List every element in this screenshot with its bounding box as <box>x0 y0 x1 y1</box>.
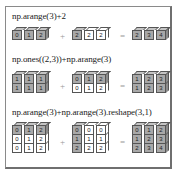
cube-side-face <box>106 140 109 153</box>
array-cell: 2 <box>132 27 143 38</box>
array-cell: 4 <box>156 27 167 38</box>
plus-operator: + <box>60 137 65 147</box>
equals-operator: = <box>120 81 125 91</box>
example-3: np.arange(3)+np.arange(3).reshape(3,1) 0… <box>6 107 170 167</box>
array-cell: 0 <box>12 140 23 151</box>
array-cell: 2 <box>72 140 83 151</box>
example-label: np.arange(3)+2 <box>12 11 66 21</box>
cell-value: 1 <box>84 83 94 93</box>
plus-operator: + <box>60 81 65 91</box>
cell-value: 2 <box>36 30 46 40</box>
cube-side-face <box>46 27 49 40</box>
array-cell: 3 <box>144 140 155 151</box>
array-cell: 1 <box>24 80 35 91</box>
array-cell: 0 <box>72 80 83 91</box>
array-left: 111111 <box>12 71 48 91</box>
cell-value: 0 <box>72 83 82 93</box>
cell-value: 4 <box>156 143 166 153</box>
cell-value: 2 <box>96 83 106 93</box>
array-cell: 2 <box>132 140 143 151</box>
cell-value: 4 <box>156 30 166 40</box>
cube-side-face <box>106 80 109 93</box>
cell-value: 2 <box>84 30 94 40</box>
cell-value: 2 <box>144 83 154 93</box>
cell-value: 2 <box>36 143 46 153</box>
cell-value: 0 <box>12 143 22 153</box>
plus-operator: + <box>60 31 65 41</box>
cell-value: 1 <box>12 83 22 93</box>
array-row: 123 <box>132 80 168 91</box>
cube-side-face <box>46 80 49 93</box>
array-row: 012 <box>12 140 48 151</box>
array-cell: 2 <box>96 27 107 38</box>
array-cell: 1 <box>36 80 47 91</box>
cell-value: 1 <box>132 83 142 93</box>
cell-value: 2 <box>72 30 82 40</box>
array-result: 234 <box>132 27 168 38</box>
array-result: 012123234 <box>132 122 168 151</box>
array-cell: 1 <box>132 80 143 91</box>
cube-side-face <box>166 140 169 153</box>
array-row: 222 <box>72 140 108 151</box>
cell-value: 1 <box>24 83 34 93</box>
array-row: 111 <box>12 80 48 91</box>
array-result: 123123 <box>132 71 168 91</box>
array-cell: 3 <box>156 80 167 91</box>
array-row: 222 <box>72 27 108 38</box>
cell-value: 1 <box>36 83 46 93</box>
cell-value: 2 <box>96 143 106 153</box>
example-1: np.arange(3)+2 012 + 222 = 234 <box>6 11 170 55</box>
array-row: 234 <box>132 27 168 38</box>
cube-side-face <box>106 27 109 40</box>
array-middle: 000111222 <box>72 122 108 151</box>
array-cell: 1 <box>24 140 35 151</box>
cell-value: 1 <box>24 30 34 40</box>
array-cell: 2 <box>96 140 107 151</box>
array-cell: 1 <box>84 80 95 91</box>
array-cell: 2 <box>84 27 95 38</box>
array-cell: 3 <box>144 27 155 38</box>
array-cell: 4 <box>156 140 167 151</box>
array-cell: 2 <box>36 140 47 151</box>
array-cell: 0 <box>12 27 23 38</box>
array-middle: 012012 <box>72 71 108 91</box>
cube-side-face <box>46 140 49 153</box>
cube-side-face <box>166 27 169 40</box>
figure-frame: np.arange(3)+2 012 + 222 = 234 np.ones((… <box>5 6 172 169</box>
array-cell: 2 <box>36 27 47 38</box>
cube-side-face <box>166 80 169 93</box>
cell-value: 2 <box>96 30 106 40</box>
example-label: np.ones((2,3))+np.arange(3) <box>12 54 111 64</box>
array-cell: 2 <box>144 80 155 91</box>
equals-operator: = <box>120 31 125 41</box>
array-middle: 222 <box>72 27 108 38</box>
array-left: 012012012 <box>12 122 48 151</box>
equals-operator: = <box>120 137 125 147</box>
array-cell: 2 <box>96 80 107 91</box>
cell-value: 2 <box>132 30 142 40</box>
example-2: np.ones((2,3))+np.arange(3) 111111 + 012… <box>6 54 170 106</box>
cell-value: 3 <box>156 83 166 93</box>
array-row: 234 <box>132 140 168 151</box>
cell-value: 3 <box>144 30 154 40</box>
cell-value: 3 <box>144 143 154 153</box>
cell-value: 2 <box>72 143 82 153</box>
array-cell: 1 <box>24 27 35 38</box>
array-cell: 2 <box>84 140 95 151</box>
cell-value: 1 <box>24 143 34 153</box>
array-row: 012 <box>12 27 48 38</box>
cell-value: 2 <box>84 143 94 153</box>
array-row: 012 <box>72 80 108 91</box>
array-cell: 2 <box>72 27 83 38</box>
example-label: np.arange(3)+np.arange(3).reshape(3,1) <box>12 107 152 117</box>
array-cell: 1 <box>12 80 23 91</box>
cell-value: 2 <box>132 143 142 153</box>
cell-value: 0 <box>12 30 22 40</box>
array-left: 012 <box>12 27 48 38</box>
